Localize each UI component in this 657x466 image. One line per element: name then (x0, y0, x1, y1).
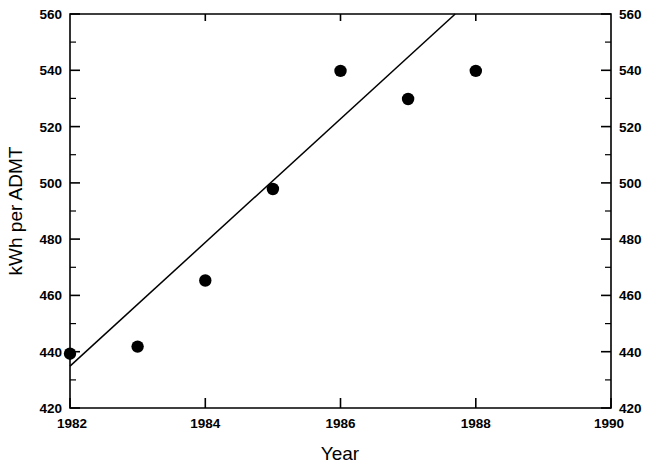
x-tick-label: 1988 (461, 416, 492, 431)
y-axis-minor-ticks-left (70, 42, 76, 380)
x-axis-tick-labels: 1982 1984 1986 1988 1990 (57, 416, 624, 431)
data-point (199, 274, 211, 286)
y-axis-minor-ticks-right (605, 42, 611, 380)
trend-line (70, 14, 455, 366)
y-tick-label-left: 520 (39, 120, 62, 135)
y-tick-label-right: 500 (619, 176, 642, 191)
y-tick-label-right: 420 (619, 401, 642, 416)
y-tick-label-left: 460 (39, 288, 62, 303)
y-tick-label-left: 540 (39, 63, 62, 78)
y-tick-label-right: 480 (619, 232, 642, 247)
data-points (64, 65, 482, 360)
y-tick-label-right: 440 (619, 345, 642, 360)
data-point (334, 65, 346, 77)
y-axis-tick-labels-left: 560 540 520 500 480 460 440 420 (39, 7, 62, 416)
y-tick-label-right: 560 (619, 7, 642, 22)
scatter-plot-svg: 560 540 520 500 480 460 440 420 560 540 … (0, 0, 657, 466)
data-point (470, 65, 482, 77)
y-tick-label-left: 420 (39, 401, 62, 416)
data-point (131, 340, 143, 352)
y-tick-label-right: 520 (619, 120, 642, 135)
data-point (402, 93, 414, 105)
x-tick-label: 1990 (594, 416, 624, 431)
y-tick-label-left: 440 (39, 345, 62, 360)
x-tick-label: 1982 (57, 416, 87, 431)
x-axis-major-ticks (70, 398, 611, 408)
data-point (64, 348, 76, 360)
y-tick-label-left: 480 (39, 232, 62, 247)
y-tick-label-left: 560 (39, 7, 62, 22)
chart-container: 560 540 520 500 480 460 440 420 560 540 … (0, 0, 657, 466)
y-axis-tick-labels-right: 560 540 520 500 480 460 440 420 (619, 7, 642, 416)
x-tick-label: 1984 (190, 416, 221, 431)
x-axis-top-ticks (205, 14, 476, 21)
data-point (267, 183, 279, 195)
y-axis-title: kWh per ADMT (5, 146, 26, 275)
y-tick-label-left: 500 (39, 176, 62, 191)
y-tick-label-right: 460 (619, 288, 642, 303)
x-tick-label: 1986 (325, 416, 356, 431)
y-tick-label-right: 540 (619, 63, 642, 78)
x-axis-title: Year (321, 443, 360, 464)
